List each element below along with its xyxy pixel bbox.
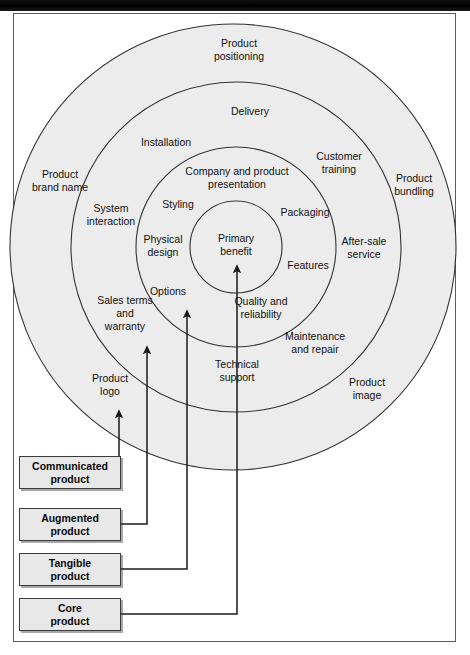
label-augmented-1: Installation <box>141 136 191 148</box>
figure-root: PrimarybenefitCompany and productpresent… <box>0 0 470 655</box>
label-communicated-9: image <box>353 389 382 401</box>
label-communicated-1: positioning <box>214 50 264 62</box>
legend-box-text-augmented: Augmentedproduct <box>41 512 99 537</box>
label-augmented-2: Customer <box>316 150 362 162</box>
label-core-1: benefit <box>220 245 252 257</box>
legend-line2-tangible: product <box>49 570 91 582</box>
label-augmented-10: warranty <box>104 320 146 332</box>
label-tangible-1: presentation <box>208 178 266 190</box>
label-augmented-12: and repair <box>291 343 339 355</box>
legend-box-text-communicated: Communicatedproduct <box>32 460 108 485</box>
legend-box-core[interactable]: Coreproduct <box>19 598 121 631</box>
legend-line2-core: product <box>50 615 89 627</box>
label-communicated-7: logo <box>100 385 120 397</box>
label-augmented-4: System <box>93 202 128 214</box>
label-augmented-11: Maintenance <box>285 330 345 342</box>
label-communicated-2: Product <box>42 168 78 180</box>
label-augmented-5: interaction <box>87 215 136 227</box>
label-communicated-5: bundling <box>394 185 434 197</box>
label-communicated-4: Product <box>396 172 432 184</box>
label-core-0: Primary <box>218 232 255 244</box>
label-tangible-0: Company and product <box>185 165 288 177</box>
label-tangible-2: Styling <box>162 198 194 210</box>
label-tangible-8: Quality and <box>234 295 287 307</box>
legend-line1-augmented: Augmented <box>41 512 99 524</box>
label-communicated-3: brand name <box>32 181 88 193</box>
label-communicated-6: Product <box>92 372 128 384</box>
label-tangible-9: reliability <box>241 308 283 320</box>
legend-line2-communicated: product <box>32 473 108 485</box>
label-augmented-8: Sales terms <box>97 294 152 306</box>
label-communicated-8: Product <box>349 376 385 388</box>
legend-box-communicated[interactable]: Communicatedproduct <box>19 456 121 489</box>
label-communicated-0: Product <box>221 37 257 49</box>
legend-line1-tangible: Tangible <box>49 557 91 569</box>
label-tangible-5: design <box>148 246 179 258</box>
legend-line2-augmented: product <box>41 525 99 537</box>
legend-box-augmented[interactable]: Augmentedproduct <box>19 508 121 541</box>
label-tangible-3: Packaging <box>280 206 329 218</box>
legend-box-tangible[interactable]: Tangibleproduct <box>19 553 121 586</box>
label-tangible-6: Features <box>287 259 328 271</box>
legend-box-text-tangible: Tangibleproduct <box>49 557 91 582</box>
label-tangible-7: Options <box>150 285 186 297</box>
label-augmented-7: service <box>347 248 380 260</box>
legend-line1-communicated: Communicated <box>32 460 108 472</box>
label-augmented-3: training <box>322 163 357 175</box>
label-augmented-9: and <box>116 307 134 319</box>
label-augmented-6: After-sale <box>342 235 387 247</box>
label-tangible-4: Physical <box>143 233 182 245</box>
legend-box-text-core: Coreproduct <box>50 602 89 627</box>
legend-line1-core: Core <box>50 602 89 614</box>
label-augmented-0: Delivery <box>231 105 270 117</box>
